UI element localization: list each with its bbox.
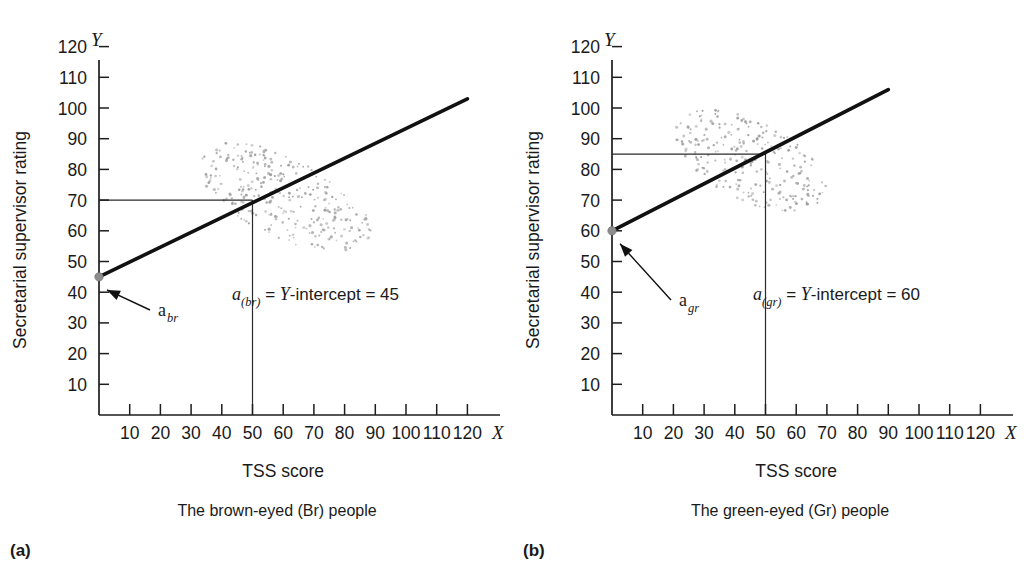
data-point: [795, 202, 798, 205]
data-point: [749, 120, 752, 123]
y-tick-label: 30: [581, 313, 601, 333]
x-tick-label: 40: [725, 423, 745, 443]
data-point: [716, 184, 718, 186]
data-point: [277, 174, 280, 177]
data-point: [325, 192, 328, 195]
data-point: [796, 144, 798, 146]
data-point: [740, 145, 743, 148]
x-tick-label: 50: [243, 423, 263, 443]
data-point: [792, 195, 794, 197]
data-point: [237, 143, 240, 146]
y-tick-label: 120: [58, 37, 87, 57]
data-point: [280, 207, 282, 209]
data-point: [240, 218, 242, 220]
data-point: [743, 142, 745, 144]
data-point: [307, 186, 309, 188]
data-point: [240, 193, 242, 195]
data-point: [803, 184, 806, 187]
x-tick-label: 40: [212, 423, 232, 443]
data-point: [302, 226, 305, 229]
data-point: [806, 201, 808, 203]
y-tick-label: 20: [68, 344, 88, 364]
data-point: [694, 151, 696, 153]
data-point: [779, 198, 781, 200]
data-point: [677, 139, 679, 141]
data-point: [309, 193, 312, 196]
data-point: [750, 164, 752, 166]
y-tick-label: 50: [581, 252, 601, 272]
data-point: [736, 128, 739, 131]
data-point: [696, 110, 698, 112]
y-tick-label: 10: [581, 375, 601, 395]
data-point: [205, 175, 208, 178]
data-point: [783, 180, 786, 183]
y-tick-label: 120: [571, 37, 600, 57]
scatterplot-b: 1020304050607080901001101201020304050607…: [513, 0, 1028, 571]
intercept-marker: [95, 273, 103, 281]
data-point: [340, 193, 342, 195]
data-point: [787, 149, 790, 152]
data-point: [326, 209, 329, 212]
data-point: [225, 159, 228, 162]
pointer-arrow-head: [107, 290, 121, 300]
data-point: [681, 142, 684, 145]
y-axis-title: Secretarial supervisor rating: [523, 131, 543, 349]
data-point: [806, 177, 809, 180]
x-tick-label: 100: [904, 423, 933, 443]
data-point: [328, 202, 330, 204]
data-point: [697, 163, 700, 166]
data-point: [735, 171, 737, 173]
panel-b: 1020304050607080901001101201020304050607…: [513, 0, 1028, 571]
data-point: [314, 246, 316, 248]
data-point: [786, 170, 789, 173]
data-point: [240, 186, 242, 188]
data-point: [759, 185, 761, 187]
data-point: [353, 240, 355, 242]
data-point: [334, 232, 336, 234]
data-point: [700, 114, 702, 116]
data-point: [263, 151, 266, 154]
data-point: [798, 172, 801, 175]
data-point: [790, 176, 793, 179]
data-point: [733, 146, 735, 148]
data-point: [756, 170, 759, 173]
data-point: [717, 110, 719, 112]
data-point: [240, 155, 242, 157]
data-point: [781, 157, 783, 159]
data-point: [249, 152, 251, 154]
x-tick-label: 80: [848, 423, 868, 443]
intercept-pointer: agr: [620, 244, 699, 315]
data-point: [798, 152, 801, 155]
data-point: [299, 187, 301, 189]
data-point: [780, 147, 782, 149]
data-point: [312, 209, 315, 212]
data-point: [247, 172, 249, 174]
data-point: [718, 179, 721, 182]
data-point: [703, 134, 705, 136]
data-point: [711, 122, 714, 125]
data-point: [706, 170, 709, 173]
data-point: [252, 167, 254, 169]
regression-line: [99, 99, 467, 277]
data-point: [761, 147, 764, 150]
data-point: [256, 177, 259, 180]
x-tick-label: 70: [817, 423, 837, 443]
data-point: [283, 176, 285, 178]
data-point: [260, 185, 263, 188]
data-point: [808, 179, 810, 181]
data-point: [240, 201, 242, 203]
y-tick-label: 60: [68, 221, 88, 241]
data-point: [255, 214, 257, 216]
y-tick-label: 110: [572, 68, 600, 88]
data-point: [682, 135, 685, 138]
data-point: [312, 189, 314, 191]
data-point: [701, 110, 703, 112]
data-point: [795, 146, 798, 149]
x-axis-letter: X: [491, 422, 505, 443]
data-point: [282, 195, 284, 197]
data-point: [737, 179, 740, 182]
data-point: [706, 137, 709, 140]
data-point: [288, 192, 291, 195]
data-point: [736, 113, 739, 116]
data-point: [297, 195, 300, 198]
